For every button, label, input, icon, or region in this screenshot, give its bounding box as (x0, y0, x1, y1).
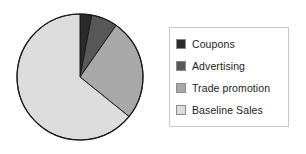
legend-label-advertising: Advertising (192, 61, 245, 72)
pie-slice-group (17, 14, 143, 140)
legend-swatch-baseline-sales (176, 105, 186, 115)
legend-swatch-trade-promotion (176, 83, 186, 93)
legend-swatch-advertising (176, 61, 186, 71)
legend-item-coupons[interactable]: Coupons (176, 33, 288, 55)
legend-label-trade-promotion: Trade promotion (192, 83, 270, 94)
legend-swatch-coupons (176, 39, 186, 49)
legend-item-advertising[interactable]: Advertising (176, 55, 288, 77)
legend-item-trade-promotion[interactable]: Trade promotion (176, 77, 288, 99)
legend-label-baseline-sales: Baseline Sales (192, 105, 263, 116)
legend-label-coupons: Coupons (192, 39, 235, 50)
chart-legend: Coupons Advertising Trade promotion Base… (169, 27, 289, 127)
pie-chart-figure: Coupons Advertising Trade promotion Base… (0, 0, 306, 154)
legend-item-baseline-sales[interactable]: Baseline Sales (176, 99, 288, 121)
